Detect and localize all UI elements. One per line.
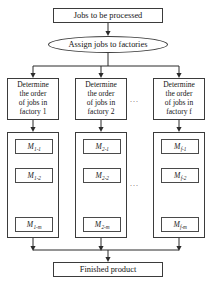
machine-base-label: M: [95, 171, 101, 180]
machine-base-label: M: [27, 171, 33, 180]
horizontal-ellipsis-icon: ...: [130, 180, 139, 188]
determine-order-box-factory-2: Determine the order of jobs in factory 2: [75, 78, 127, 120]
machine-subscript-label: f-1: [181, 146, 187, 152]
machine-subscript-label: 2-m: [101, 224, 109, 230]
machine-group-factory-2: M2-1 M2-2 M2-m: [75, 132, 127, 238]
machine-subscript-label: f-2: [181, 175, 187, 181]
machine-subscript-label: 1-m: [33, 224, 41, 230]
machine-subscript-label: 1-2: [34, 175, 41, 181]
machine-subscript-label: 2-2: [102, 175, 109, 181]
machine-base-label: M: [27, 220, 33, 229]
machine-group-factory-f: Mf-1 Mf-2 Mf-m: [153, 132, 205, 238]
machine-box: M1-2: [15, 168, 53, 183]
determine-line-4: factory 2: [88, 108, 115, 117]
machine-subscript-label: 1-1: [34, 146, 41, 152]
machine-base-label: M: [95, 220, 101, 229]
machine-subscript-label: 2-1: [102, 146, 109, 152]
determine-line-4: factory f: [166, 108, 192, 117]
machine-box: M2-m: [83, 217, 121, 232]
machine-subscript-label: f-m: [180, 224, 187, 230]
start-node-jobs-to-be-processed: Jobs to be processed: [53, 8, 163, 23]
machine-box: M2-2: [83, 168, 121, 183]
machine-base-label: M: [27, 142, 33, 151]
machine-base-label: M: [95, 142, 101, 151]
machine-base-label: M: [174, 142, 180, 151]
horizontal-ellipsis-icon: ...: [130, 96, 139, 104]
machine-base-label: M: [173, 220, 179, 229]
machine-box: Mf-1: [161, 139, 199, 154]
end-node-finished-product: Finished product: [53, 262, 163, 277]
determine-line-4: factory 1: [20, 108, 47, 117]
flowchart-diagram: Jobs to be processed Assign jobs to fact…: [0, 0, 214, 287]
machine-box: M2-1: [83, 139, 121, 154]
machine-group-factory-1: M1-1 M1-2 M1-m: [7, 132, 59, 238]
machine-box: Mf-m: [161, 217, 199, 232]
machine-box: M1-1: [15, 139, 53, 154]
assign-node-label: Assign jobs to factories: [69, 40, 148, 50]
start-node-label: Jobs to be processed: [74, 11, 143, 21]
determine-order-box-factory-1: Determine the order of jobs in factory 1: [7, 78, 59, 120]
machine-box: M1-m: [15, 217, 53, 232]
machine-base-label: M: [174, 171, 180, 180]
end-node-label: Finished product: [80, 265, 137, 275]
process-node-assign-jobs-to-factories: Assign jobs to factories: [48, 36, 168, 53]
determine-order-box-factory-f: Determine the order of jobs in factory f: [153, 78, 205, 120]
machine-box: Mf-2: [161, 168, 199, 183]
